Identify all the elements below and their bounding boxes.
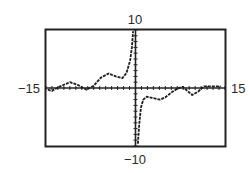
ymin-label: −10 <box>124 152 146 167</box>
ymax-label: 10 <box>128 12 142 27</box>
xmin-label: −15 <box>18 81 40 96</box>
xmax-label: 15 <box>231 81 245 96</box>
curve-branch-left <box>48 31 133 91</box>
curve-branch-right <box>138 86 221 143</box>
graph-canvas: 10 −10 −15 15 <box>0 0 252 173</box>
